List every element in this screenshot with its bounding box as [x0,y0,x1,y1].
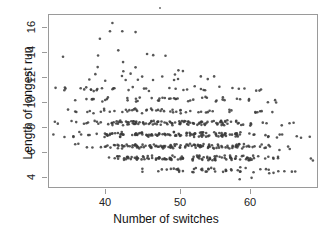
scatter-plot-figure: 40 50 60 4 6 8 10 12 14 16 Number of swi… [0,0,332,235]
x-tick-label-50: 50 [160,196,200,208]
y-tick-mark-6 [42,152,47,153]
x-tick-mark-60 [250,189,251,194]
y-tick-mark-12 [42,77,47,78]
y-tick-mark-8 [42,127,47,128]
x-tick-label-40: 40 [85,196,125,208]
y-tick-mark-14 [42,52,47,53]
stray-point-marker [159,7,161,9]
y-tick-mark-4 [42,177,47,178]
y-tick-mark-16 [42,27,47,28]
y-tick-mark-10 [42,102,47,103]
plot-area [48,14,318,188]
x-tick-mark-40 [105,189,106,194]
x-tick-mark-50 [180,189,181,194]
x-tick-label-60: 60 [230,196,270,208]
x-axis-label: Number of switches [0,212,332,226]
y-axis-label: Length of longest run [21,23,35,183]
